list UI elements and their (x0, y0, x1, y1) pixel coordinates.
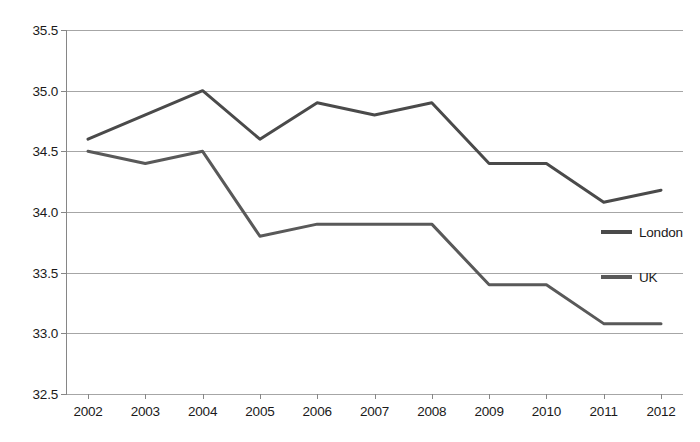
series-line-london (88, 91, 661, 203)
legend-swatch-uk (601, 275, 632, 279)
series-line-uk (88, 151, 661, 323)
legend-label-uk: UK (639, 270, 657, 285)
legend-swatch-london (601, 230, 632, 234)
legend-item-uk[interactable]: UK (601, 266, 696, 288)
legend-label-london: London (639, 225, 683, 240)
legend-item-london[interactable]: London (601, 221, 696, 243)
series-layer (0, 0, 700, 442)
chart-legend: London UK (601, 221, 696, 311)
line-chart: 35.535.034.534.033.533.032.5 20022003200… (0, 0, 700, 442)
